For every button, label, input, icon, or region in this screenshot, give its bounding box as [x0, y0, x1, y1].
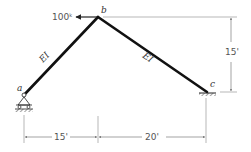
- dimension-bc-label: 20': [145, 132, 159, 142]
- dimension-vertical: [103, 17, 237, 92]
- dimension-ab-label: 15': [54, 132, 68, 142]
- support-a-icon: [15, 93, 33, 112]
- joint-c-label: c: [210, 79, 215, 89]
- joint-a-label: a: [17, 83, 22, 93]
- member-ab-label: EI: [36, 50, 51, 65]
- support-c-icon: [199, 93, 216, 96]
- dimension-horizontal: [24, 98, 206, 143]
- member-ab: [24, 17, 98, 95]
- frame-diagram: EI EI 100k b a c 15' 15': [0, 0, 251, 152]
- load-label: 100k: [52, 12, 72, 22]
- joint-b-label: b: [101, 5, 107, 15]
- member-bc-label: EI: [140, 50, 155, 65]
- dimension-vertical-label: 15': [225, 47, 239, 57]
